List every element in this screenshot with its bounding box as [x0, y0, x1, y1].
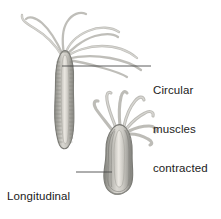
label-circular-line2: muscles	[153, 123, 208, 136]
figure-canvas: Circular muscles contracted Longitudinal…	[0, 0, 221, 219]
label-longitudinal-muscles-contracted: Longitudinal muscles contracted	[7, 164, 70, 219]
contracted-hydra-group	[94, 92, 155, 195]
elongated-hydra-tentacles	[22, 13, 141, 77]
contracted-hydra-gastric-cavity	[114, 130, 125, 187]
label-circular-muscles-contracted: Circular muscles contracted	[153, 58, 208, 201]
label-circular-line3: contracted	[153, 162, 208, 175]
elongated-hydra-gastric-cavity	[61, 55, 69, 144]
label-longitudinal-line1: Longitudinal	[7, 190, 70, 203]
label-circular-line1: Circular	[153, 84, 208, 97]
